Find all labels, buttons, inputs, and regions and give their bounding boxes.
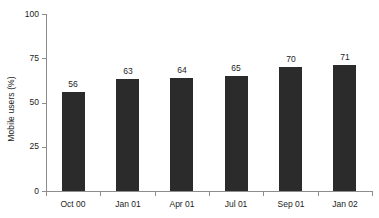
x-axis-category-label: Jan 02 bbox=[315, 199, 375, 209]
bar-value-label: 56 bbox=[53, 79, 93, 89]
y-axis-tick bbox=[42, 147, 46, 148]
x-axis-category-label: Sep 01 bbox=[261, 199, 321, 209]
bar bbox=[225, 76, 248, 191]
y-axis-line bbox=[46, 14, 47, 192]
x-axis-tick bbox=[372, 192, 373, 196]
bar-value-label: 63 bbox=[108, 66, 148, 76]
bar-value-label: 65 bbox=[216, 63, 256, 73]
bar bbox=[333, 65, 356, 191]
x-axis-tick bbox=[100, 192, 101, 196]
y-axis-tick-label: 75 bbox=[17, 54, 39, 63]
y-axis-tick-label: 100 bbox=[17, 10, 39, 19]
y-axis-title: Mobile users (%) bbox=[3, 0, 19, 218]
bar-value-label: 70 bbox=[271, 54, 311, 64]
x-axis-category-label: Oct 00 bbox=[43, 199, 103, 209]
x-axis-category-label: Apr 01 bbox=[152, 199, 212, 209]
bar bbox=[62, 92, 85, 191]
x-axis-tick bbox=[155, 192, 156, 196]
bar bbox=[116, 79, 139, 191]
y-axis-tick-label: 25 bbox=[17, 142, 39, 151]
bar-value-label: 71 bbox=[325, 52, 365, 62]
bar bbox=[279, 67, 302, 191]
y-axis-tick bbox=[42, 14, 46, 15]
bar bbox=[170, 78, 193, 191]
x-axis-category-label: Jan 01 bbox=[98, 199, 158, 209]
x-axis-tick bbox=[318, 192, 319, 196]
bar-chart: Mobile users (%) 0255075100 566364657071… bbox=[0, 0, 379, 218]
x-axis-category-label: Jul 01 bbox=[206, 199, 266, 209]
x-axis-tick bbox=[263, 192, 264, 196]
y-axis-tick bbox=[42, 58, 46, 59]
y-axis-tick-label: 50 bbox=[17, 98, 39, 107]
bar-value-label: 64 bbox=[162, 65, 202, 75]
y-axis-tick bbox=[42, 103, 46, 104]
x-axis-tick bbox=[46, 192, 47, 196]
y-axis-tick-label: 0 bbox=[17, 187, 39, 196]
x-axis-tick bbox=[209, 192, 210, 196]
